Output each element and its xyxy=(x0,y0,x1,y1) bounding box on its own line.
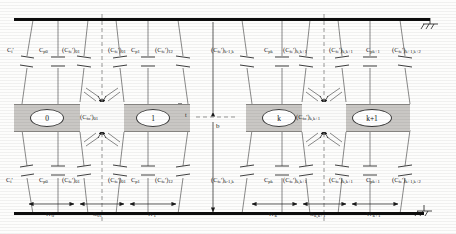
dimension-label-Wk: Wk xyxy=(268,210,277,218)
resonator-1[interactable]: 1 xyxy=(136,109,170,127)
cap-label-Cfe-kk1-left-bottom: (Cfe')k,k+1 xyxy=(283,176,307,184)
cap-label-Cfe01-left-top: (Cfe')01 xyxy=(62,46,80,54)
cap-label-Cfe01-right-top: (Cfe')01 xyxy=(108,46,126,54)
top-ground-plane xyxy=(14,18,430,21)
resonator-k-plus-1[interactable]: k+1 xyxy=(352,109,392,127)
cap-label-Cpk1-bottom: Cpk+1 xyxy=(366,176,380,184)
dimension-label-W0: W0 xyxy=(45,210,54,218)
cap-label-Ci-prime-top: Ci' xyxy=(7,46,14,54)
cap-label-Cfe-kk1-left-top: (Cfe')k,k+1 xyxy=(283,46,307,54)
cap-label-Cpk-top: Cpk xyxy=(264,46,273,54)
cap-label-Cfe-km1k-top: (Cfe')k-1,k xyxy=(211,46,234,54)
cap-label-Cp0-top: Cp0 xyxy=(39,46,48,54)
cap-label-Ci-prime-bottom: Ci' xyxy=(6,176,13,184)
cap-label-Cfe01-right-bottom: (Cfe')01 xyxy=(108,176,126,184)
bottom-capacitor-plates xyxy=(20,165,412,176)
bottom-fringe-wires xyxy=(22,130,410,214)
cap-label-Cp1-top: Cp1 xyxy=(131,46,140,54)
top-fringe-wires xyxy=(22,20,410,104)
cap-label-Cfe-km1k-bottom: (Cfe')k-1,k xyxy=(211,176,234,184)
coupling-label-Cfo-01: (Cfo')01 xyxy=(80,113,98,121)
diagram-canvas: 0 1 k k+1 Ci' Cp0 (Cfe')01 (Cfe')01 Cp1 … xyxy=(0,0,456,234)
cap-label-Cp0-bottom: Cp0 xyxy=(39,176,48,184)
resonator-k[interactable]: k xyxy=(262,109,296,127)
bottom-ground-plane xyxy=(14,212,424,215)
cap-label-Cfe12-top: (Cfe')12 xyxy=(155,46,173,54)
cap-label-Cpk-bottom: Cpk xyxy=(264,176,273,184)
resonator-0[interactable]: 0 xyxy=(30,109,64,127)
dimension-label-S01: S01 xyxy=(93,210,102,218)
cap-label-Cfe01-left-bottom: (Cfe')01 xyxy=(62,176,80,184)
top-capacitor-plates xyxy=(20,56,412,67)
coupling-label-Cfo-kk1: (Cfo')k,k+1 xyxy=(296,113,320,121)
cap-label-Cfe-k1k2-top: (Cfe')k+1,k+2 xyxy=(392,46,421,54)
cap-label-Cp1-bottom: Cp1 xyxy=(131,176,140,184)
dimension-label-b: b xyxy=(216,122,220,130)
cap-label-Cpk1-top: Cpk+1 xyxy=(366,46,380,54)
cap-label-Cfe-kk1-right-top: (Cfe')k,k+1 xyxy=(329,46,353,54)
cap-label-Cfe12-bottom: (Cfe')12 xyxy=(155,176,173,184)
dimension-label-Wk1: Wk+1 xyxy=(366,210,380,218)
dimension-label-W1: W1 xyxy=(147,210,156,218)
cap-label-Cfe-k1k2-bottom: (Cfe')k+1,k+2 xyxy=(392,176,421,184)
cap-label-Cfe-kk1-right-bottom: (Cfe')k,k+1 xyxy=(329,176,353,184)
dimension-label-t: t xyxy=(185,112,187,118)
dimension-label-Skk1: Sk,k+1 xyxy=(310,210,325,218)
